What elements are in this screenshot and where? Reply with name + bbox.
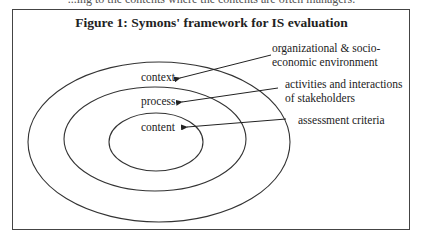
ring-label-context: context (141, 71, 176, 83)
framework-diagram: context process content organizational &… (0, 0, 423, 241)
figure-page: ...ing to the contents where the content… (0, 0, 423, 241)
annotation-context-line1: organizational & socio- (272, 42, 381, 55)
ring-label-process: process (141, 95, 176, 108)
annotation-process-line1: activities and interactions (285, 78, 403, 90)
arrow-process (182, 88, 278, 102)
arrow-context (180, 55, 271, 78)
ring-label-content: content (141, 121, 176, 133)
context-ring (28, 62, 290, 222)
arrow-content (187, 119, 286, 127)
annotation-content-line1: assessment criteria (298, 114, 385, 126)
annotation-process-line2: of stakeholders (285, 92, 355, 104)
annotation-context-line2: economic environment (272, 56, 379, 68)
